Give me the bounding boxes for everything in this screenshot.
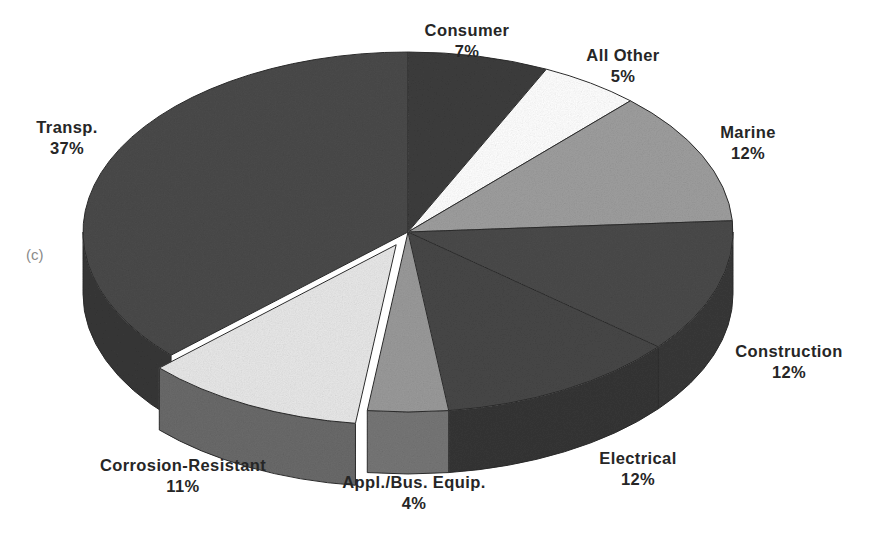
slice-label-corrosion-resistant: Corrosion-Resistant11% bbox=[100, 455, 266, 498]
slice-label-percent-consumer: 7% bbox=[425, 41, 510, 62]
slice-label-name-transp: Transp. bbox=[36, 117, 98, 138]
slice-label-percent-appl-bus-equip: 4% bbox=[342, 493, 485, 514]
slice-label-percent-construction: 12% bbox=[735, 362, 842, 383]
slice-label-construction: Construction12% bbox=[735, 341, 842, 384]
slice-label-percent-transp: 37% bbox=[36, 138, 98, 159]
slice-label-name-marine: Marine bbox=[720, 122, 776, 143]
slice-label-all-other: All Other5% bbox=[586, 45, 659, 88]
pie-chart-figure: (c) Consumer7%All Other5%Marine12%Constr… bbox=[0, 0, 869, 535]
slice-label-name-all-other: All Other bbox=[586, 45, 659, 66]
slice-label-percent-marine: 12% bbox=[720, 143, 776, 164]
slice-label-name-construction: Construction bbox=[735, 341, 842, 362]
figure-tag: (c) bbox=[26, 246, 44, 263]
slice-label-electrical: Electrical12% bbox=[599, 448, 676, 491]
slice-label-name-corrosion-resistant: Corrosion-Resistant bbox=[100, 455, 266, 476]
slice-label-percent-corrosion-resistant: 11% bbox=[100, 476, 266, 497]
slice-label-name-appl-bus-equip: Appl./Bus. Equip. bbox=[342, 472, 485, 493]
slice-label-marine: Marine12% bbox=[720, 122, 776, 165]
slice-label-consumer: Consumer7% bbox=[425, 20, 510, 63]
pie-slice-side-appl-bus-equip bbox=[367, 411, 448, 474]
slice-label-name-electrical: Electrical bbox=[599, 448, 676, 469]
slice-label-percent-all-other: 5% bbox=[586, 66, 659, 87]
slice-label-percent-electrical: 12% bbox=[599, 469, 676, 490]
slice-label-appl-bus-equip: Appl./Bus. Equip.4% bbox=[342, 472, 485, 515]
slice-label-name-consumer: Consumer bbox=[425, 20, 510, 41]
slice-label-transp: Transp.37% bbox=[36, 117, 98, 160]
